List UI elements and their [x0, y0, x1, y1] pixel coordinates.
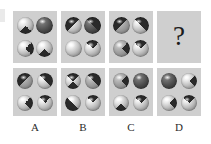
sphere-bottom-left — [113, 95, 129, 111]
sphere-bottom-left — [17, 95, 33, 111]
sphere-bottom-right — [181, 95, 197, 111]
sphere-grid — [16, 14, 54, 60]
sphere-marking-bottom-wedge — [85, 95, 101, 111]
sphere-top-right — [36, 17, 53, 34]
sphere-shading — [65, 40, 82, 57]
sphere-marking-bowtie — [65, 73, 81, 89]
option-label-a: A — [13, 121, 57, 133]
sphere-top-right — [132, 17, 149, 34]
sphere-marking-bottom-wedge — [84, 40, 101, 57]
sphere-marking-diag-ll — [65, 95, 81, 111]
sphere-bottom-left — [65, 95, 81, 111]
sphere-marking-left-wedge — [181, 73, 197, 89]
sphere-marking-diag-ur — [84, 17, 101, 34]
options-row — [0, 68, 211, 116]
sphere-bottom-right — [84, 40, 101, 57]
sphere-top-left — [65, 73, 81, 89]
sphere-bottom-right — [133, 95, 149, 111]
sphere-marking-diag-ur — [37, 73, 53, 89]
sphere-shading — [161, 73, 177, 89]
sphere-grid — [16, 71, 54, 113]
sphere-bottom-right — [132, 40, 149, 57]
option-label-d: D — [157, 121, 201, 133]
sphere-bottom-left — [65, 40, 82, 57]
sphere-top-left — [17, 17, 34, 34]
sphere-top-right — [181, 73, 197, 89]
sphere-top-left — [17, 73, 33, 89]
sphere-marking-bottom-wedge — [132, 40, 149, 57]
option-b-panel[interactable] — [61, 68, 105, 116]
sphere-marking-left-wedge — [113, 73, 129, 89]
sphere-top-right — [133, 73, 149, 89]
option-label-b: B — [61, 121, 105, 133]
sphere-grid — [64, 14, 102, 60]
sphere-marking-left-wedge — [113, 40, 130, 57]
sphere-bottom-right — [36, 40, 53, 57]
sphere-marking-diag-ul — [113, 17, 130, 34]
sphere-bottom-left — [161, 95, 177, 111]
sphere-marking-bottom-wedge — [181, 95, 197, 111]
sequence-panel-2 — [61, 11, 105, 63]
sphere-top-left — [65, 17, 82, 34]
sphere-grid — [160, 71, 198, 113]
sphere-marking-top-wedge — [17, 17, 34, 34]
sphere-top-left — [113, 17, 130, 34]
option-d-panel[interactable] — [157, 68, 201, 116]
sphere-marking-bottom-wedge — [133, 95, 149, 111]
question-mark-symbol: ? — [173, 23, 185, 50]
option-a-panel[interactable] — [13, 68, 57, 116]
sphere-top-right — [85, 73, 101, 89]
sphere-top-left — [161, 73, 177, 89]
sphere-marking-diag-ul — [17, 73, 33, 89]
sphere-marking-diag-ur — [85, 73, 101, 89]
sphere-grid — [112, 14, 150, 60]
sphere-marking-top-wedge — [36, 40, 53, 57]
sphere-marking-top-wedge — [113, 95, 129, 111]
sphere-bottom-left — [17, 40, 34, 57]
option-label-c: C — [109, 121, 153, 133]
sequence-panel-1 — [13, 11, 57, 63]
sequence-row: ? — [0, 11, 211, 63]
sphere-top-right — [37, 73, 53, 89]
sphere-marking-diag-ur — [132, 17, 149, 34]
sphere-marking-left-wedge — [161, 95, 177, 111]
sphere-shading — [36, 17, 53, 34]
sequence-panel-3 — [109, 11, 153, 63]
sphere-marking-left-wedge — [17, 95, 33, 111]
question-panel: ? — [157, 11, 201, 63]
sphere-top-left — [113, 73, 129, 89]
sphere-marking-diag-ul — [65, 17, 82, 34]
option-labels: A B C D — [0, 121, 211, 137]
option-c-panel[interactable] — [109, 68, 153, 116]
sphere-bottom-right — [85, 95, 101, 111]
sphere-top-right — [84, 17, 101, 34]
sphere-marking-left-wedge — [17, 40, 34, 57]
sphere-bottom-right — [37, 95, 53, 111]
sphere-shading — [133, 73, 149, 89]
sphere-grid — [112, 71, 150, 113]
matrix-reasoning-puzzle: ? A B C D — [0, 0, 211, 144]
sphere-grid — [64, 71, 102, 113]
sphere-bottom-left — [113, 40, 130, 57]
sphere-marking-bottom-wedge — [37, 95, 53, 111]
